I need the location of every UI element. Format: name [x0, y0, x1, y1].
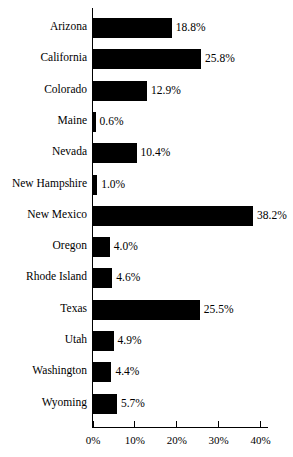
bar-row: Nevada10.4% — [0, 140, 293, 171]
x-tick-label: 20% — [157, 434, 197, 447]
category-label: Oregon — [53, 238, 88, 252]
bar — [93, 18, 172, 38]
bar-value-label: 4.6% — [116, 270, 140, 284]
bar-value-label: 18.8% — [176, 20, 206, 34]
bar — [93, 394, 117, 414]
bar-value-label: 25.8% — [205, 51, 235, 65]
category-label: California — [40, 50, 87, 64]
category-label: Nevada — [52, 144, 87, 158]
bar-row: Wyoming5.7% — [0, 391, 293, 422]
category-label: Arizona — [50, 19, 87, 33]
category-label: Utah — [65, 332, 87, 346]
bar — [93, 81, 147, 101]
bar-value-label: 4.9% — [118, 333, 142, 347]
category-label: Maine — [58, 113, 87, 127]
category-label: Wyoming — [42, 395, 87, 409]
bar-value-label: 38.2% — [257, 208, 287, 222]
bar — [93, 175, 97, 195]
category-label: Texas — [60, 301, 87, 315]
bar-value-label: 0.6% — [100, 114, 124, 128]
bar — [93, 49, 201, 69]
bar-chart: Arizona18.8%California25.8%Colorado12.9%… — [0, 0, 293, 457]
x-tick-label: 40% — [241, 434, 281, 447]
category-label: Colorado — [44, 82, 87, 96]
x-tick-mark — [92, 421, 93, 427]
plot-area: Arizona18.8%California25.8%Colorado12.9%… — [0, 0, 293, 457]
bar-value-label: 10.4% — [141, 145, 171, 159]
bar-row: Rhode Island4.6% — [0, 265, 293, 296]
bar-value-label: 25.5% — [204, 302, 234, 316]
bar — [93, 143, 137, 163]
bar-value-label: 4.0% — [114, 239, 138, 253]
x-axis-line — [92, 427, 268, 428]
bar-row: Maine0.6% — [0, 109, 293, 140]
bar-value-label: 1.0% — [101, 177, 125, 191]
x-tick-label: 0% — [73, 434, 113, 447]
bar-row: Utah4.9% — [0, 328, 293, 359]
bar-value-label: 12.9% — [151, 83, 181, 97]
x-tick-mark — [134, 421, 135, 427]
bar — [93, 237, 110, 257]
category-label: New Mexico — [27, 207, 87, 221]
category-label: New Hampshire — [12, 176, 87, 190]
bar-row: Washington4.4% — [0, 359, 293, 390]
bar-row: New Hampshire1.0% — [0, 172, 293, 203]
bar-row: California25.8% — [0, 46, 293, 77]
bar-row: Colorado12.9% — [0, 78, 293, 109]
bar-value-label: 5.7% — [121, 396, 145, 410]
bar-row: Texas25.5% — [0, 297, 293, 328]
x-tick-mark — [260, 421, 261, 427]
bar — [93, 112, 96, 132]
category-label: Rhode Island — [26, 269, 87, 283]
bar-row: New Mexico38.2% — [0, 203, 293, 234]
x-tick-label: 10% — [115, 434, 155, 447]
category-label: Washington — [32, 363, 87, 377]
x-tick-mark — [176, 421, 177, 427]
bar-row: Arizona18.8% — [0, 15, 293, 46]
x-tick-label: 30% — [199, 434, 239, 447]
bar — [93, 362, 111, 382]
bar-value-label: 4.4% — [115, 364, 139, 378]
bar — [93, 206, 253, 226]
x-tick-mark — [218, 421, 219, 427]
bar — [93, 331, 114, 351]
bar — [93, 268, 112, 288]
bar — [93, 300, 200, 320]
bar-row: Oregon4.0% — [0, 234, 293, 265]
